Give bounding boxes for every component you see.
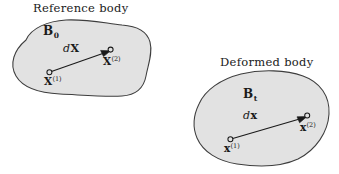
deformed-point-1-symbol: x <box>224 142 230 154</box>
reference-point-2-superscript: (2) <box>111 55 120 63</box>
deformed-body-subscript: t <box>254 94 257 103</box>
reference-head-marker <box>108 47 113 52</box>
reference-body-letter: B <box>43 24 53 38</box>
reference-vector-label: dX <box>63 43 79 54</box>
deformed-body-title: Deformed body <box>220 57 313 69</box>
deformed-point-1-superscript: (1) <box>231 142 240 150</box>
deformation-figure: Reference body B0 dX X(1) X(2) Deformed … <box>0 0 339 174</box>
deformed-head-marker <box>305 113 310 118</box>
deformed-vector-label: dx <box>243 110 257 121</box>
deformed-vector-differential: d <box>243 109 250 122</box>
reference-body-subscript: 0 <box>54 31 59 40</box>
reference-point-1-symbol: X <box>44 75 52 87</box>
deformed-body-letter: B <box>243 87 253 101</box>
reference-point-2-symbol: X <box>103 55 111 67</box>
deformed-point-1-label: x(1) <box>224 143 239 154</box>
deformed-body-shape <box>194 71 329 166</box>
reference-vector-differential: d <box>63 42 70 55</box>
reference-body-title: Reference body <box>33 3 128 15</box>
deformed-point-2-label: x(2) <box>300 122 315 133</box>
deformed-point-2-superscript: (2) <box>307 121 316 129</box>
reference-point-2-label: X(2) <box>103 56 120 67</box>
reference-point-1-label: X(1) <box>44 76 61 87</box>
reference-point-1-superscript: (1) <box>52 75 61 83</box>
deformed-vector-symbol: x <box>250 109 257 122</box>
reference-body-shape <box>13 20 151 96</box>
reference-body-label: B0 <box>43 25 58 37</box>
deformed-body-label: Bt <box>243 88 257 100</box>
deformed-point-2-symbol: x <box>300 121 306 133</box>
reference-vector-symbol: X <box>70 42 79 55</box>
